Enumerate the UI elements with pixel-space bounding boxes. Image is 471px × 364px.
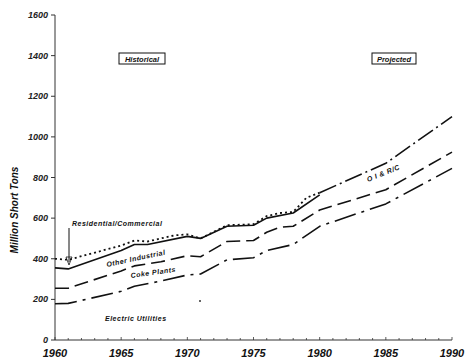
x-tick-label: 1990 <box>440 347 465 359</box>
y-axis-label: Million Short Tons <box>9 166 20 253</box>
x-tick-label: 1975 <box>241 347 266 359</box>
x-tick-label: 1960 <box>43 347 68 359</box>
projected-label: Projected <box>377 55 412 64</box>
y-tick-label: 200 <box>32 294 48 304</box>
y-tick-label: 1200 <box>28 91 48 101</box>
y-tick-label: 600 <box>33 213 48 223</box>
series-lines <box>55 117 452 304</box>
y-tick-label: 400 <box>32 254 48 264</box>
coal-consumption-chart: 0200400600800100012001400160019601965197… <box>0 0 471 364</box>
series-line-3 <box>55 168 452 303</box>
x-tick-label: 1965 <box>109 347 134 359</box>
y-tick-label: 1000 <box>28 132 48 142</box>
residential-commercial-label: Residential/Commercial <box>72 220 163 227</box>
y-tick-label: 1600 <box>28 10 48 20</box>
coke-plants-label: Coke Plants <box>130 266 176 279</box>
historical-label: Historical <box>125 55 160 64</box>
series-line-1 <box>55 195 320 269</box>
oi-rc-projected-line <box>320 117 452 193</box>
x-tick-label: 1985 <box>374 347 399 359</box>
y-tick-label: 800 <box>33 173 48 183</box>
x-tick-label: 1980 <box>307 347 332 359</box>
stray-dot <box>199 300 201 302</box>
y-tick-label: 0 <box>43 335 48 345</box>
x-tick-label: 1970 <box>175 347 200 359</box>
annotations: Million Short Tons Historical Projected … <box>9 53 416 322</box>
electric-utilities-label: Electric Utilities <box>105 315 167 322</box>
y-tick-label: 1400 <box>28 51 48 61</box>
oi-rc-label: O I & R/C <box>366 163 401 183</box>
